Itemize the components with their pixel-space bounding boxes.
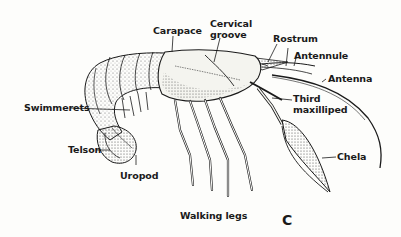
abdomen-shape xyxy=(85,52,165,140)
label-uropod: Uropod xyxy=(120,171,158,181)
swimmerets-shape xyxy=(122,92,148,118)
tail-fan-shape xyxy=(97,126,136,163)
chela-shape xyxy=(282,120,330,192)
label-walking-legs: Walking legs xyxy=(180,211,247,221)
label-third-maxilliped-line2: maxilliped xyxy=(293,105,348,115)
label-carapace: Carapace xyxy=(153,26,202,36)
label-cervical-groove-line2: groove xyxy=(210,30,247,40)
label-rostrum: Rostrum xyxy=(273,34,318,44)
carapace-shape xyxy=(158,50,261,101)
label-third-maxilliped-line1: Third xyxy=(293,94,321,104)
label-antennule: Antennule xyxy=(294,51,348,61)
panel-letter: C xyxy=(282,213,292,227)
label-chela: Chela xyxy=(337,152,366,162)
cheliped-shape xyxy=(250,82,282,124)
label-telson: Telson xyxy=(68,145,101,155)
crayfish-diagram: Carapace Cervical groove Rostrum Antennu… xyxy=(0,0,401,237)
label-antenna: Antenna xyxy=(328,74,372,84)
label-cervical-groove-line1: Cervical xyxy=(210,19,252,29)
label-swimmerets: Swimmerets xyxy=(24,103,89,113)
